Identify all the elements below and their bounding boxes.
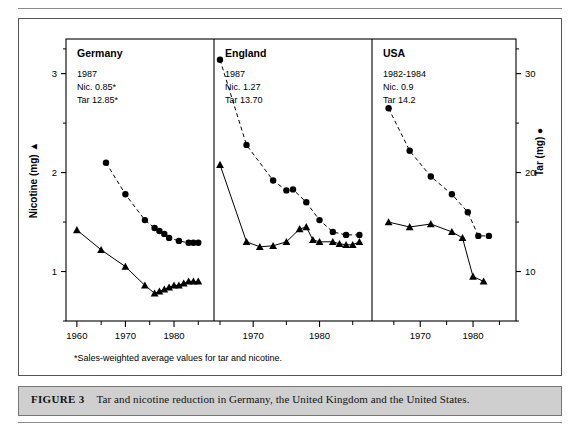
data-point-triangle	[459, 234, 467, 241]
data-point-circle	[270, 177, 276, 183]
data-point-triangle	[469, 273, 477, 280]
page-rule-top	[18, 8, 562, 9]
data-point-circle	[465, 209, 471, 215]
left-tick-label: 3	[52, 68, 57, 79]
data-point-circle	[142, 217, 148, 223]
x-tick-label: 1980	[462, 330, 483, 341]
left-axis-title: Nicotine (mg) ▲	[28, 142, 39, 219]
data-point-circle	[475, 233, 481, 239]
data-point-circle	[166, 235, 172, 241]
data-point-triangle	[385, 218, 393, 225]
data-point-triangle	[73, 226, 81, 233]
figure-caption: FIGURE 3Tar and nicotine reduction in Ge…	[31, 393, 470, 405]
data-point-circle	[428, 173, 434, 179]
right-tick-label: 30	[525, 68, 536, 79]
series-line-england-nicotine	[220, 165, 359, 247]
data-point-triangle	[216, 161, 224, 168]
data-point-circle	[122, 191, 128, 197]
panel-england-tar: Tar 13.70	[225, 95, 263, 105]
panel-usa-tar: Tar 14.2	[383, 95, 416, 105]
panel-england-year: 1987	[225, 69, 245, 79]
x-tick-label: 1970	[115, 330, 136, 341]
data-point-circle	[195, 240, 201, 246]
data-point-triangle	[448, 228, 456, 235]
panel-title-germany: Germany	[77, 47, 123, 59]
data-point-circle	[449, 191, 455, 197]
x-tick-label: 1960	[66, 330, 87, 341]
panel-germany-tar: Tar 12.85*	[77, 95, 119, 105]
data-point-triangle	[309, 236, 317, 243]
series-line-usa-tar	[389, 108, 489, 236]
data-point-triangle	[122, 263, 130, 270]
panel-title-england: England	[225, 47, 266, 59]
data-point-triangle	[356, 238, 364, 245]
plot-border	[66, 39, 516, 321]
data-point-circle	[243, 142, 249, 148]
figure-caption-text: Tar and nicotine reduction in Germany, t…	[96, 393, 469, 405]
chart-canvas: 123102030Nicotine (mg) ▲Tar (mg) ●German…	[19, 19, 561, 375]
x-tick-label: 1970	[243, 330, 264, 341]
page-rule-bottom	[18, 422, 562, 423]
figure-footnote: *Sales-weighted average values for tar a…	[74, 353, 282, 363]
panel-usa-year: 1982-1984	[383, 69, 426, 79]
data-point-circle	[407, 148, 413, 154]
panel-usa-nicotine: Nic. 0.9	[383, 82, 414, 92]
series-line-germany-tar	[106, 163, 198, 243]
data-point-circle	[176, 238, 182, 244]
figure-page: 123102030Nicotine (mg) ▲Tar (mg) ●German…	[0, 0, 580, 430]
left-tick-label: 2	[52, 167, 57, 178]
left-tick-label: 1	[52, 266, 57, 277]
series-line-usa-nicotine	[389, 222, 484, 281]
data-point-circle	[385, 105, 391, 111]
figure-caption-bar: FIGURE 3Tar and nicotine reduction in Ge…	[18, 386, 562, 416]
panel-germany-year: 1987	[77, 69, 97, 79]
right-axis-title: Tar (mg) ●	[534, 128, 545, 176]
data-point-triangle	[427, 220, 435, 227]
data-point-circle	[217, 57, 223, 63]
data-point-circle	[303, 199, 309, 205]
x-tick-label: 1980	[309, 330, 330, 341]
x-tick-label: 1980	[163, 330, 184, 341]
data-point-triangle	[302, 223, 310, 230]
panel-england-nicotine: Nic. 1.27	[225, 82, 261, 92]
data-point-triangle	[480, 278, 488, 285]
data-point-circle	[330, 229, 336, 235]
data-point-circle	[356, 232, 362, 238]
panel-germany-nicotine: Nic. 0.85*	[77, 82, 117, 92]
data-point-circle	[343, 232, 349, 238]
data-point-circle	[316, 217, 322, 223]
data-point-circle	[290, 186, 296, 192]
data-point-circle	[486, 233, 492, 239]
x-tick-label: 1970	[410, 330, 431, 341]
data-point-triangle	[243, 238, 251, 245]
data-point-circle	[103, 160, 109, 166]
figure-frame: 123102030Nicotine (mg) ▲Tar (mg) ●German…	[18, 18, 562, 376]
figure-label: FIGURE 3	[31, 393, 84, 405]
right-tick-label: 10	[525, 266, 536, 277]
data-point-circle	[283, 187, 289, 193]
panel-title-usa: USA	[383, 47, 406, 59]
